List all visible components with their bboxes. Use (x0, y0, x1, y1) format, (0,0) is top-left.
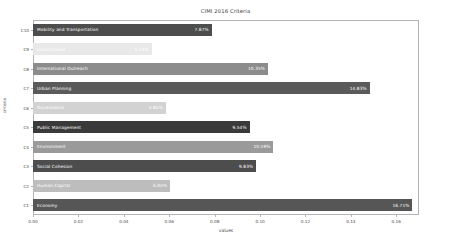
y-axis-tick-label: C10 (21, 27, 29, 32)
bar-row: Mobility and Transportation7.87% (33, 24, 419, 36)
bar-category-label: International Outreach (37, 66, 88, 71)
bar-row: Economy16.71% (33, 199, 419, 211)
x-axis-tick-mark (305, 215, 306, 217)
x-axis-tick-mark (169, 215, 170, 217)
bar-value-label: 14.83% (350, 86, 367, 91)
bar[interactable]: Environment10.59% (33, 141, 273, 153)
x-axis-tick-mark (215, 215, 216, 217)
bar-value-label: 7.87% (195, 27, 209, 32)
y-axis-tick-label: C2 (23, 183, 29, 188)
bar-value-label: 16.71% (392, 203, 409, 208)
bar-value-label: 5.23% (135, 47, 149, 52)
bar-row: Urban Planning14.83% (33, 82, 419, 94)
bar-category-label: Environment (37, 47, 66, 52)
bar-category-label: Social Cohesion (37, 164, 72, 169)
x-axis-tick-label: 0.04 (119, 219, 128, 224)
bar-row: Environment5.23% (33, 43, 419, 55)
bar[interactable]: Public Management9.54% (33, 121, 250, 133)
bar[interactable]: Economy16.71% (33, 199, 412, 211)
bar-value-label: 5.85% (149, 105, 163, 110)
y-axis-tick-mark (31, 147, 33, 148)
x-axis-tick-mark (396, 215, 397, 217)
x-axis-tick-label: 0.14 (346, 219, 355, 224)
y-axis-tick-label: C7 (23, 86, 29, 91)
x-axis-tick-label: 0.12 (301, 219, 310, 224)
x-axis-tick-label: 0.08 (210, 219, 219, 224)
y-axis-tick-label: C4 (23, 144, 29, 149)
bar[interactable]: Mobility and Transportation7.87% (33, 24, 212, 36)
x-axis-tick-mark (33, 215, 34, 217)
bar-category-label: Human Capital (37, 183, 70, 188)
bar[interactable]: Governance5.85% (33, 102, 166, 114)
x-axis-tick-label: 0.00 (28, 219, 37, 224)
bar-row: Environment10.59% (33, 141, 419, 153)
y-axis-tick-mark (31, 30, 33, 31)
y-axis-tick-label: C9 (23, 47, 29, 52)
bar-category-label: Mobility and Transportation (37, 27, 98, 32)
bars-layer: Mobility and Transportation7.87%Environm… (33, 20, 419, 215)
x-axis-tick-mark (260, 215, 261, 217)
bar-row: Governance5.85% (33, 102, 419, 114)
y-axis-tick-mark (31, 205, 33, 206)
bar[interactable]: Social Cohesion9.83% (33, 160, 256, 172)
y-axis-tick-label: C8 (23, 66, 29, 71)
y-axis-tick-label: C1 (23, 203, 29, 208)
x-axis-tick-mark (124, 215, 125, 217)
bar-row: Human Capital6.04% (33, 180, 419, 192)
x-axis-tick-mark (351, 215, 352, 217)
x-axis-tick-label: 0.10 (255, 219, 264, 224)
bar-value-label: 9.83% (239, 164, 253, 169)
bar-row: Public Management9.54% (33, 121, 419, 133)
y-axis-tick-mark (31, 108, 33, 109)
x-axis-ticks: 0.000.020.040.060.080.100.120.140.16 (33, 215, 419, 229)
bar-value-label: 10.35% (248, 66, 265, 71)
bar-category-label: Economy (37, 203, 58, 208)
y-axis-tick-label: C3 (23, 164, 29, 169)
x-axis-tick-label: 0.16 (392, 219, 401, 224)
bar-row: Social Cohesion9.83% (33, 160, 419, 172)
bar[interactable]: Human Capital6.04% (33, 180, 170, 192)
y-axis-tick-mark (31, 69, 33, 70)
x-axis-tick-label: 0.06 (165, 219, 174, 224)
bar-row: International Outreach10.35% (33, 63, 419, 75)
y-axis-tick-mark (31, 166, 33, 167)
y-axis-tick-mark (31, 127, 33, 128)
bar[interactable]: International Outreach10.35% (33, 63, 268, 75)
bar[interactable]: Urban Planning14.83% (33, 82, 370, 94)
y-axis-tick-mark (31, 49, 33, 50)
y-axis-tick-label: C6 (23, 105, 29, 110)
y-axis-tick-mark (31, 88, 33, 89)
y-axis-ticks: C10C9C8C7C6C5C4C3C2C1 (0, 20, 29, 215)
bar-value-label: 9.54% (232, 125, 246, 130)
x-axis-tick-label: 0.02 (74, 219, 83, 224)
y-axis-tick-mark (31, 186, 33, 187)
bar-value-label: 10.59% (253, 144, 270, 149)
x-axis-tick-mark (78, 215, 79, 217)
bar-category-label: Environment (37, 144, 66, 149)
chart-figure: CIMI 2016 Criteria criteria C10C9C8C7C6C… (0, 0, 451, 249)
chart-title: CIMI 2016 Criteria (0, 8, 451, 14)
bar-category-label: Urban Planning (37, 86, 71, 91)
bar-category-label: Public Management (37, 125, 81, 130)
bar[interactable]: Environment5.23% (33, 43, 152, 55)
y-axis-tick-label: C5 (23, 125, 29, 130)
bar-value-label: 6.04% (153, 183, 167, 188)
x-axis-label: values (33, 228, 419, 233)
bar-category-label: Governance (37, 105, 64, 110)
